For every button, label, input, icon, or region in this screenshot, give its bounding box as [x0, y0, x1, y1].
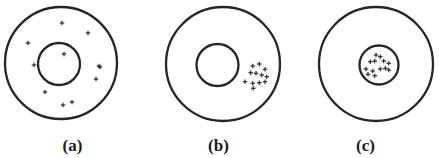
outer-shell-circle: [166, 7, 280, 121]
positive-charge-icon: [263, 67, 268, 72]
positive-charge-icon: [263, 79, 268, 84]
positive-charge-icon: [264, 74, 269, 79]
positive-charge-icon: [257, 62, 262, 67]
positive-charge-icon: [248, 70, 253, 75]
positive-charge-icon: [254, 71, 259, 76]
positive-charge-icon: [94, 77, 99, 82]
positive-charge-icon: [257, 80, 262, 85]
inner-shell-circle: [38, 43, 80, 85]
panel-b: (b): [145, 0, 292, 158]
outer-shell-circle: [5, 7, 117, 119]
positive-charge-icon: [386, 61, 391, 66]
positive-charge-icon: [250, 81, 255, 86]
panel-b-label: (b): [145, 136, 292, 156]
positive-charge-icon: [70, 100, 75, 105]
positive-charge-icon: [26, 41, 31, 46]
panel-c-diagram: [292, 0, 439, 135]
positive-charge-icon: [372, 73, 377, 78]
positive-charge-icon: [370, 69, 375, 74]
inner-shell-circle: [197, 44, 239, 86]
positive-charge-icon: [374, 53, 379, 58]
positive-charge-icon: [86, 31, 91, 36]
panel-a-label: (a): [0, 136, 145, 156]
positive-charge-icon: [60, 21, 65, 26]
positive-charge-icon: [364, 67, 369, 72]
panel-b-diagram: [145, 0, 292, 135]
inner-shell-circle: [360, 46, 399, 85]
panel-c-label: (c): [292, 136, 439, 156]
positive-charge-icon: [381, 59, 386, 64]
positive-charge-icon: [378, 54, 383, 59]
positive-charge-icon: [366, 72, 371, 77]
figure-container: (a) (b) (c): [0, 0, 439, 158]
positive-charge-icon: [378, 67, 383, 72]
positive-charge-icon: [61, 103, 66, 108]
panel-a-diagram: [0, 0, 145, 135]
positive-charge-icon: [62, 52, 67, 57]
positive-charge-icon: [243, 79, 248, 84]
positive-charge-icon: [250, 64, 255, 69]
positive-charge-icon: [43, 90, 48, 95]
positive-charge-icon: [372, 59, 377, 64]
positive-charge-icon: [368, 59, 373, 64]
positive-charge-icon: [97, 64, 102, 69]
positive-charge-icon: [251, 86, 256, 91]
positive-charge-icon: [32, 63, 37, 68]
positive-charge-icon: [98, 65, 103, 70]
outer-shell-circle: [319, 7, 433, 121]
panel-c: (c): [292, 0, 439, 158]
panel-a: (a): [0, 0, 145, 158]
positive-charge-icon: [259, 73, 264, 78]
